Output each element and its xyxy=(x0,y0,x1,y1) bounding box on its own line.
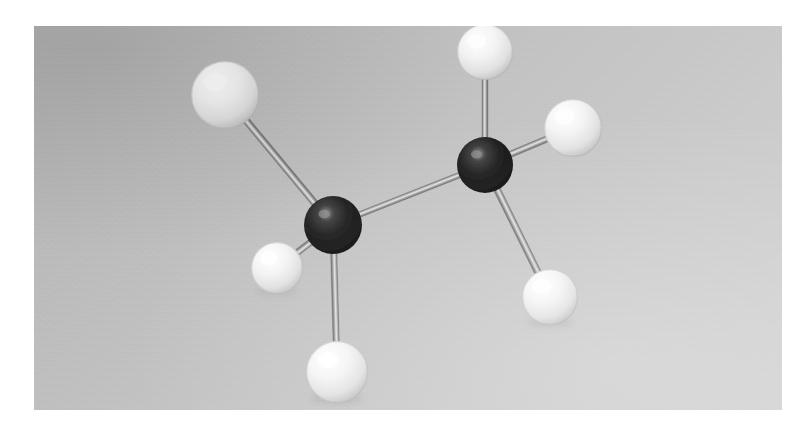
atom-hydrogen-top xyxy=(457,26,513,80)
atom-hydrogen-upper-left xyxy=(191,61,259,129)
atom-carbon-right xyxy=(457,137,513,193)
ball-and-stick-model xyxy=(34,26,782,410)
atom-hydrogen-bottom xyxy=(306,341,368,403)
atom-hydrogen-mid-left xyxy=(251,242,303,294)
atom-hydrogen-upper-right xyxy=(544,99,602,157)
page-root xyxy=(0,0,803,443)
atom-carbon-left xyxy=(304,196,362,254)
molecular-model-photograph xyxy=(34,26,782,410)
atom-spheres xyxy=(191,26,602,403)
atom-hydrogen-lower-right xyxy=(522,269,578,325)
bond-rods xyxy=(222,52,574,372)
